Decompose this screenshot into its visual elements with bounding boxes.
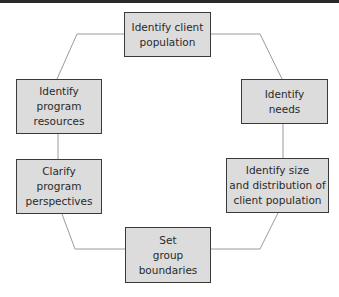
edge-size-to-boundaries [211,213,278,249]
node-label: Identify needs [265,87,305,117]
edge-resources-to-client [57,34,124,79]
node-label: Identify program resources [34,84,85,129]
node-identify-program-resources: Identify program resources [16,79,102,134]
node-set-group-boundaries: Set group boundaries [125,227,211,283]
edge-client-to-needs [211,34,282,79]
node-clarify-program-perspectives: Clarify program perspectives [16,159,102,214]
node-identify-client-population: Identify client population [124,12,211,57]
edge-boundaries-to-perspectives [62,214,125,249]
node-label: Clarify program perspectives [26,164,93,209]
node-identify-size-distribution: Identify size and distribution of client… [226,158,329,213]
node-label: Identify size and distribution of client… [229,163,325,208]
node-identify-needs: Identify needs [241,79,328,124]
node-label: Identify client population [132,20,204,50]
node-label: Set group boundaries [139,233,198,278]
